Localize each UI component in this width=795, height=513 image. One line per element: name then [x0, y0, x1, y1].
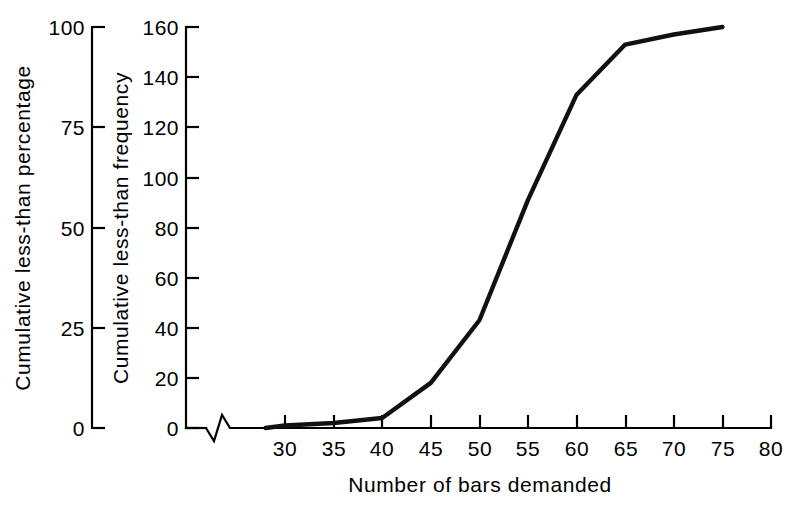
x-ticklabel-55: 55 — [516, 437, 540, 460]
x-ticklabel-30: 30 — [273, 437, 297, 460]
x-ticklabel-35: 35 — [322, 437, 346, 460]
frequency-ticklabel-0: 0 — [167, 417, 179, 440]
percentage-ticklabel-25: 25 — [61, 317, 85, 340]
frequency-ticklabel-100: 100 — [142, 167, 179, 190]
percentage-ticklabel-50: 50 — [61, 217, 85, 240]
x-axis-title: Number of bars demanded — [348, 473, 612, 496]
chart-figure: 100 75 50 25 0 Cumulative less-than perc… — [0, 0, 795, 513]
cumulative-frequency-line — [266, 27, 723, 428]
data-series-group — [266, 27, 723, 428]
frequency-ticklabel-140: 140 — [142, 66, 179, 89]
frequency-ticklabel-20: 20 — [155, 367, 179, 390]
frequency-ticklabel-60: 60 — [155, 267, 179, 290]
frequency-ticklabel-40: 40 — [155, 317, 179, 340]
axis-break-icon — [206, 415, 230, 441]
frequency-ticklabel-160: 160 — [142, 16, 179, 39]
x-ticklabel-80: 80 — [759, 437, 783, 460]
ogive-chart: 100 75 50 25 0 Cumulative less-than perc… — [0, 0, 795, 513]
x-ticklabel-50: 50 — [468, 437, 492, 460]
percentage-ticklabel-75: 75 — [61, 116, 85, 139]
frequency-ticklabel-120: 120 — [142, 116, 179, 139]
frequency-axis: 160 140 120 100 80 60 40 20 0 Cumulative… — [109, 16, 199, 440]
percentage-axis: 100 75 50 25 0 Cumulative less-than perc… — [11, 16, 105, 440]
x-ticklabel-75: 75 — [711, 437, 735, 460]
x-ticklabel-60: 60 — [565, 437, 589, 460]
percentage-ticklabel-100: 100 — [48, 16, 85, 39]
percentage-axis-title: Cumulative less-than percentage — [11, 65, 34, 391]
x-ticklabel-40: 40 — [370, 437, 394, 460]
frequency-ticklabel-80: 80 — [155, 217, 179, 240]
frequency-axis-title: Cumulative less-than frequency — [109, 72, 132, 384]
x-ticklabel-45: 45 — [419, 437, 443, 460]
x-ticklabel-70: 70 — [662, 437, 686, 460]
x-ticklabel-65: 65 — [614, 437, 638, 460]
percentage-ticklabel-0: 0 — [73, 417, 85, 440]
